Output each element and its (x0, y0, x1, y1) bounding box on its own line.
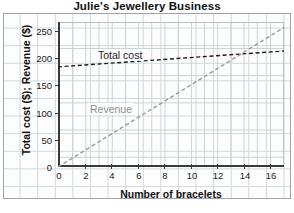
x-tick-label-16: 16 (262, 170, 280, 181)
x-tick-label-4: 4 (103, 170, 121, 181)
x-tick-label-14: 14 (236, 170, 254, 181)
x-tick-label-6: 6 (130, 170, 148, 181)
x-tick-mark-6 (138, 164, 139, 169)
y-tick-label-0: 0 (26, 162, 52, 173)
x-tick-mark-12 (217, 164, 218, 169)
chart-title: Julie's Jewellery Business (0, 0, 294, 13)
x-tick-label-12: 12 (209, 170, 227, 181)
y-tick-label-50: 50 (26, 135, 52, 146)
revenue-series-label: Revenue (88, 103, 134, 115)
x-tick-label-10: 10 (183, 170, 201, 181)
y-tick-label-250: 250 (26, 26, 52, 37)
x-axis-label: Number of bracelets (58, 188, 284, 200)
plot-axes (58, 22, 284, 167)
x-tick-mark-8 (164, 164, 165, 169)
y-tick-label-200: 200 (26, 53, 52, 64)
y-tick-mark-250 (55, 31, 60, 32)
y-tick-mark-100 (55, 113, 60, 114)
x-tick-mark-2 (85, 164, 86, 169)
y-tick-label-150: 150 (26, 80, 52, 91)
x-tick-mark-10 (191, 164, 192, 169)
y-tick-label-100: 100 (26, 108, 52, 119)
y-tick-mark-50 (55, 140, 60, 141)
x-tick-mark-4 (111, 164, 112, 169)
x-tick-label-2: 2 (77, 170, 95, 181)
x-tick-label-8: 8 (156, 170, 174, 181)
y-tick-mark-150 (55, 85, 60, 86)
x-tick-mark-16 (270, 164, 271, 169)
total-cost-series-label: Total cost (96, 49, 144, 61)
y-tick-mark-200 (55, 58, 60, 59)
x-tick-mark-14 (244, 164, 245, 169)
chart-page: Julie's Jewellery Business Total cost ($… (0, 0, 294, 213)
x-tick-label-0: 0 (50, 170, 68, 181)
